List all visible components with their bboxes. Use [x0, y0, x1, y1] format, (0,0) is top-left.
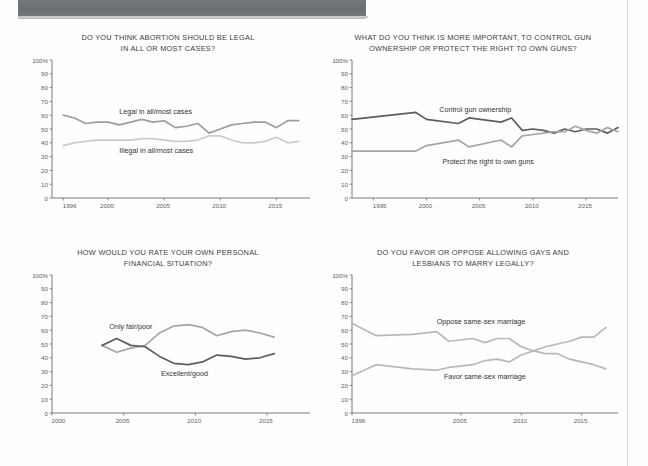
y-axis-tick-label: 100% — [318, 57, 348, 64]
x-axis-tick-label: 2015 — [574, 417, 588, 424]
y-axis-tick-label: 10 — [18, 181, 48, 188]
axis-lines — [52, 275, 310, 413]
y-axis-tick-label: 0 — [318, 195, 348, 202]
y-axis-tick-label: 40 — [18, 354, 48, 361]
y-axis-tick-label: 90 — [18, 285, 48, 292]
chart-title: HOW WOULD YOU RATE YOUR OWN PERSONAL FIN… — [18, 248, 318, 269]
series-line — [352, 112, 618, 133]
x-axis-tick-label: 2005 — [453, 417, 467, 424]
axis-lines — [352, 60, 618, 198]
y-axis-tick-label: 60 — [18, 112, 48, 119]
series-line — [102, 338, 274, 364]
y-axis-tick-label: 80 — [18, 299, 48, 306]
y-axis-tick-label: 0 — [318, 410, 348, 417]
chart-personal-finances: HOW WOULD YOU RATE YOUR OWN PERSONAL FIN… — [18, 248, 318, 429]
chart-abortion-legal: DO YOU THINK ABORTION SHOULD BE LEGAL IN… — [18, 33, 318, 214]
y-axis-tick-label: 10 — [318, 396, 348, 403]
series-inline-label: Control gun ownership — [439, 105, 511, 114]
y-axis-tick-label: 10 — [18, 396, 48, 403]
series-inline-label: Only fair/poor — [109, 322, 152, 331]
y-axis-tick-label: 0 — [18, 195, 48, 202]
x-axis-tick-label: 1996 — [352, 417, 366, 424]
x-axis-tick-label: 2010 — [513, 417, 527, 424]
chart-gun-control: WHAT DO YOU THINK IS MORE IMPORTANT, TO … — [318, 33, 628, 214]
y-axis-tick-label: 20 — [18, 167, 48, 174]
x-axis-tick-label: 2015 — [268, 202, 282, 209]
x-axis-tick-label: 2000 — [52, 417, 66, 424]
x-axis-tick-label: 2015 — [578, 202, 592, 209]
y-axis-tick-label: 60 — [18, 327, 48, 334]
y-axis-tick-label: 50 — [18, 126, 48, 133]
y-axis-tick-label: 100% — [18, 57, 48, 64]
y-axis-tick-label: 70 — [318, 313, 348, 320]
x-axis-tick-label: 2005 — [156, 202, 170, 209]
series-inline-label: Protect the right to own guns — [442, 157, 534, 166]
y-axis-tick-label: 10 — [318, 181, 348, 188]
plot-svg — [18, 269, 318, 429]
y-axis-tick-label: 100% — [318, 272, 348, 279]
y-axis-tick-label: 0 — [18, 410, 48, 417]
series-inline-label: Favor same-sex marriage — [444, 372, 526, 381]
plot-area: 100%90807060504030201001996200520102015O… — [318, 269, 628, 429]
chart-title: DO YOU FAVOR OR OPPOSE ALLOWING GAYS AND… — [318, 248, 628, 269]
top-banner-fill — [18, 0, 366, 16]
y-axis-tick-label: 50 — [18, 341, 48, 348]
x-axis-tick-label: 2015 — [259, 417, 273, 424]
y-axis-tick-label: 70 — [318, 98, 348, 105]
y-axis-tick-label: 90 — [18, 70, 48, 77]
x-axis-tick-label: 1995 — [373, 202, 387, 209]
y-axis-tick-label: 40 — [18, 139, 48, 146]
y-axis-tick-label: 20 — [318, 167, 348, 174]
y-axis-tick-label: 20 — [18, 382, 48, 389]
y-axis-tick-label: 30 — [318, 368, 348, 375]
y-axis-tick-label: 40 — [318, 139, 348, 146]
y-axis-tick-label: 30 — [18, 368, 48, 375]
y-axis-tick-label: 70 — [18, 98, 48, 105]
y-axis-tick-label: 50 — [318, 126, 348, 133]
page-canvas: DO YOU THINK ABORTION SHOULD BE LEGAL IN… — [0, 0, 648, 466]
axis-lines — [52, 60, 310, 198]
x-axis-tick-label: 2010 — [187, 417, 201, 424]
x-axis-tick-label: 2010 — [212, 202, 226, 209]
plot-svg — [318, 54, 628, 214]
x-axis-tick-label: 2000 — [100, 202, 114, 209]
y-axis-tick-label: 20 — [318, 382, 348, 389]
x-axis-tick-label: 2005 — [472, 202, 486, 209]
y-axis-tick-label: 80 — [318, 84, 348, 91]
y-axis-tick-label: 40 — [318, 354, 348, 361]
series-inline-label: Oppose same-sex marriage — [437, 317, 526, 326]
chart-same-sex-marriage: DO YOU FAVOR OR OPPOSE ALLOWING GAYS AND… — [318, 248, 628, 429]
plot-area: 100%90807060504030201002000200520102015O… — [18, 269, 318, 429]
chart-title: DO YOU THINK ABORTION SHOULD BE LEGAL IN… — [18, 33, 318, 54]
top-banner-shadow — [18, 16, 368, 18]
x-axis-tick-label: 2010 — [525, 202, 539, 209]
y-axis-tick-label: 90 — [318, 285, 348, 292]
y-axis-tick-label: 90 — [318, 70, 348, 77]
series-line — [63, 115, 299, 133]
plot-svg — [18, 54, 318, 214]
y-axis-tick-label: 100% — [18, 272, 48, 279]
axis-lines — [352, 275, 618, 413]
plot-area: 100%908070605040302010019962000200520102… — [18, 54, 318, 214]
series-line — [63, 136, 299, 146]
x-axis-tick-label: 1996 — [63, 202, 77, 209]
plot-svg — [318, 269, 628, 429]
y-axis-tick-label: 80 — [18, 84, 48, 91]
y-axis-tick-label: 80 — [318, 299, 348, 306]
y-axis-tick-label: 50 — [318, 341, 348, 348]
series-inline-label: Illegal in all/most cases — [119, 146, 193, 155]
x-axis-tick-label: 2005 — [116, 417, 130, 424]
series-line — [352, 126, 618, 151]
y-axis-tick-label: 30 — [318, 153, 348, 160]
series-inline-label: Excellent/good — [161, 369, 208, 378]
plot-area: 100%908070605040302010019952000200520102… — [318, 54, 628, 214]
y-axis-tick-label: 70 — [18, 313, 48, 320]
x-axis-tick-label: 2000 — [418, 202, 432, 209]
y-axis-tick-label: 60 — [318, 327, 348, 334]
y-axis-tick-label: 60 — [318, 112, 348, 119]
series-inline-label: Legal in all/most cases — [119, 107, 192, 116]
chart-title: WHAT DO YOU THINK IS MORE IMPORTANT, TO … — [318, 33, 628, 54]
y-axis-tick-label: 30 — [18, 153, 48, 160]
